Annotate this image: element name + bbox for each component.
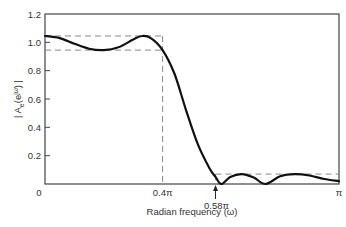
y-zero-label: 0 [36, 187, 41, 198]
y-tick-label: 1.2 [28, 9, 41, 20]
magnitude-curve [45, 36, 339, 184]
y-tick-label: 1.0 [28, 37, 41, 48]
plot-border [45, 14, 339, 184]
x-axis-title: Radian frequency (ω) [147, 206, 238, 217]
y-tick-label: 0.4 [28, 122, 41, 133]
x-tick-label: 0.4π [153, 187, 173, 198]
y-tick-label: 0.6 [28, 94, 41, 105]
y-tick-label: 0.8 [28, 65, 41, 76]
y-axis-title-text: | Ae(ejω) | [12, 80, 25, 118]
tolerance-guides [45, 36, 339, 184]
stopband-edge-arrow [213, 185, 218, 199]
plot-frame [45, 14, 339, 184]
arrow-head-icon [213, 185, 218, 191]
y-tick-label: 0.2 [28, 150, 41, 161]
filter-response-chart: 0.20.40.60.81.01.20 0.4π0.58ππ Radian fr… [0, 0, 346, 227]
x-tick-label: π [336, 187, 343, 198]
y-axis-title: | Ae(ejω) | [12, 80, 25, 118]
